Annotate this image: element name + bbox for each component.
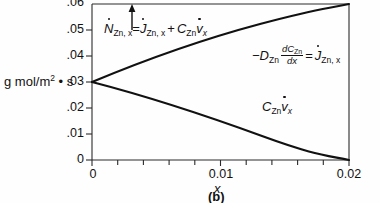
diffusion-flux-equation: −DZn dCZn dx =JZn, x xyxy=(252,44,340,66)
y-tick-label-004: .04 xyxy=(56,49,84,62)
ficks-law-minus-D: −D xyxy=(252,48,269,63)
y-axis-label: g mol/m2 • s xyxy=(4,74,73,88)
convective-C-symbol: C xyxy=(262,99,271,114)
x-tick-label-001: 0.01 xyxy=(199,168,243,181)
x-tick-label-0: 0 xyxy=(86,168,100,181)
convective-flux-label: CZnvx xyxy=(262,100,292,115)
total-flux-C-subscript: Zn xyxy=(186,28,196,38)
total-flux-v-symbol: v xyxy=(196,22,203,35)
total-flux-C-symbol: C xyxy=(177,21,186,36)
y-axis-label-tail: • s xyxy=(55,74,73,89)
total-flux-J-symbol: J xyxy=(140,22,147,35)
ficks-law-derivative-fraction: dCZn dx xyxy=(281,44,303,66)
x-tick-marks xyxy=(92,160,349,166)
total-flux-J-subscript: Zn, x xyxy=(146,28,165,38)
lower-convection-curve xyxy=(92,82,349,160)
total-flux-equals: = xyxy=(132,21,140,36)
total-flux-equation: NZn, x=JZn, x+CZnvx xyxy=(104,22,207,37)
convective-v-symbol: v xyxy=(281,100,288,113)
ficks-law-denominator: dx xyxy=(281,56,303,66)
y-tick-label-002: .02 xyxy=(56,101,84,114)
ficks-law-J-symbol: J xyxy=(315,49,322,62)
total-flux-v-subscript: x xyxy=(203,28,207,38)
ficks-law-num-subscript: Zn xyxy=(294,48,302,55)
y-tick-marks xyxy=(86,30,92,160)
y-tick-label-006: .06 xyxy=(56,0,84,9)
y-tick-label-005: .05 xyxy=(56,23,84,36)
x-tick-label-002: 0.02 xyxy=(327,168,371,181)
figure-container: .06 .05 .04 .03 .02 .01 0 g mol/m2 • s 0… xyxy=(0,0,380,203)
total-flux-N-symbol: N xyxy=(104,22,113,35)
upper-flux-curve xyxy=(92,4,349,82)
y-tick-label-001: .01 xyxy=(56,127,84,140)
convective-C-subscript: Zn xyxy=(271,106,281,116)
total-flux-N-subscript: Zn, x xyxy=(113,28,132,38)
ficks-law-D-subscript: Zn xyxy=(269,55,279,65)
total-flux-plus: + xyxy=(167,21,175,36)
ficks-law-J-subscript: Zn, x xyxy=(321,55,340,65)
figure-caption: (b) xyxy=(208,190,225,203)
ficks-law-equals: = xyxy=(305,48,313,63)
y-axis-label-main: g mol/m xyxy=(4,74,50,89)
y-tick-label-000: 0 xyxy=(56,153,84,166)
convective-v-subscript: x xyxy=(288,106,292,116)
